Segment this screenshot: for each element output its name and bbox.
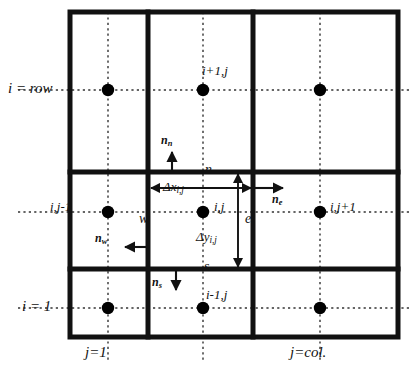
delta-x-symbol: Δx xyxy=(163,179,176,194)
node-dot xyxy=(102,206,114,218)
dimension-label-delta-x: Δxi,j xyxy=(163,180,184,196)
normal-base-symbol: n xyxy=(95,231,102,245)
node-dot xyxy=(314,206,326,218)
normal-subscript: e xyxy=(279,198,283,207)
normal-base-symbol: n xyxy=(152,275,159,289)
node-label-west: i,j-1 xyxy=(50,200,71,213)
normal-label-n-east: ne xyxy=(272,193,282,208)
node-label-north: i+1,j xyxy=(202,64,228,77)
face-label-w: w xyxy=(139,212,148,226)
axis-label-col-left: j=1 xyxy=(85,345,107,360)
grid-diagram-svg xyxy=(0,0,413,388)
normal-label-n-north: nn xyxy=(161,134,172,149)
axis-label-col-right: j=col. xyxy=(290,345,326,360)
node-dot xyxy=(197,84,209,96)
face-label-n: n xyxy=(205,163,212,177)
node-label-east: i,j+1 xyxy=(330,200,356,213)
axis-label-row-bottom: i = 1 xyxy=(22,299,51,314)
normal-subscript: s xyxy=(159,281,162,290)
node-dot xyxy=(314,84,326,96)
node-dot xyxy=(197,302,209,314)
node-dot xyxy=(102,302,114,314)
axis-label-row-top: i = row xyxy=(8,81,53,96)
normal-base-symbol: n xyxy=(161,133,168,147)
normal-subscript: n xyxy=(168,139,173,148)
delta-y-symbol: Δy xyxy=(196,229,209,244)
dimension-label-delta-y: Δyi,j xyxy=(196,230,217,246)
face-label-s: s xyxy=(204,260,209,274)
node-label-south: i-1,j xyxy=(206,288,227,301)
node-dot xyxy=(314,302,326,314)
face-label-e: e xyxy=(245,212,251,226)
normal-label-n-south: ns xyxy=(152,276,162,291)
control-volume-grid xyxy=(70,12,398,337)
delta-y-subscript: i,j xyxy=(209,235,217,245)
normal-base-symbol: n xyxy=(272,192,279,206)
node-label-center: i,j xyxy=(214,200,224,213)
node-dot xyxy=(197,206,209,218)
figure-canvas: i = row i = 1 j=1 j=col. i+1,j i,j-1 i,j… xyxy=(0,0,413,388)
node-dot xyxy=(102,84,114,96)
delta-x-subscript: i,j xyxy=(176,185,184,195)
normal-subscript: w xyxy=(102,237,108,246)
normal-label-n-west: nw xyxy=(95,232,107,247)
